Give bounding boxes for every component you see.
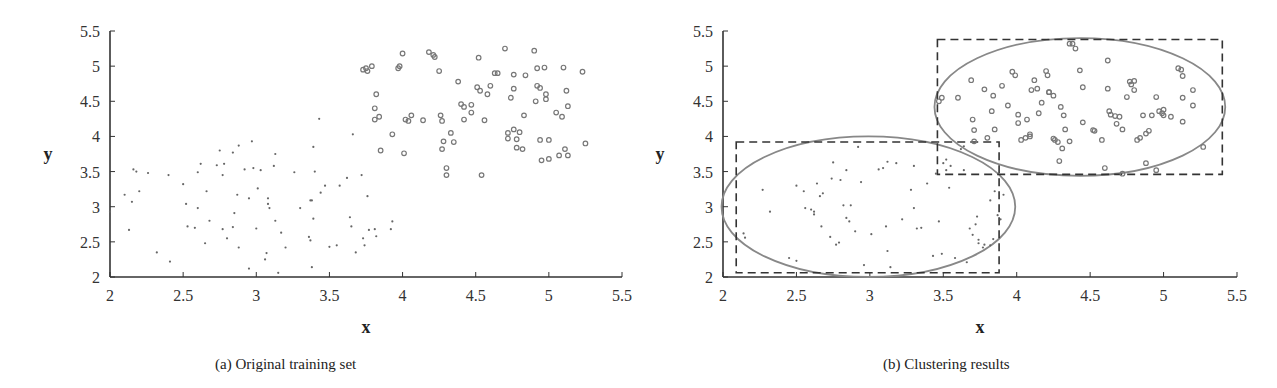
data-point-dot — [963, 169, 965, 171]
data-point-dot — [264, 258, 266, 260]
data-point-circle — [1061, 113, 1066, 118]
data-point-dot — [994, 190, 996, 192]
data-point-circle — [1025, 117, 1030, 122]
data-point-circle — [1105, 58, 1110, 63]
data-point-circle — [440, 147, 445, 152]
data-point-circle — [517, 130, 522, 135]
data-point-circle — [506, 136, 511, 141]
data-point-circle — [989, 109, 994, 114]
data-point-dot — [820, 225, 822, 227]
data-point-dot — [169, 260, 171, 262]
data-point-dot — [842, 204, 844, 206]
data-point-circle — [1051, 93, 1056, 98]
panel-original-training-set: 22.533.544.555.522.533.544.555.5xy (a) O… — [0, 0, 640, 388]
data-point-dot — [835, 244, 837, 246]
data-point-dot — [222, 174, 224, 176]
data-point-dot — [810, 208, 812, 210]
data-point-dot — [942, 162, 944, 164]
data-point-circle — [514, 145, 519, 150]
data-point-circle — [485, 92, 490, 97]
data-point-circle — [370, 64, 375, 69]
data-point-circle — [377, 114, 382, 119]
data-point-dot — [945, 159, 947, 161]
data-point-dot — [822, 192, 824, 194]
data-point-dot — [960, 148, 962, 150]
data-point-dot — [350, 225, 352, 227]
data-point-circle — [557, 153, 562, 158]
x-tick-label: 3.5 — [933, 287, 953, 304]
data-point-circle — [1191, 103, 1196, 108]
data-point-circle — [509, 95, 514, 100]
data-point-dot — [804, 207, 806, 209]
data-point-dot — [277, 272, 279, 274]
data-point-dot — [885, 225, 887, 227]
data-point-dot — [208, 220, 210, 222]
data-point-dot — [147, 172, 149, 174]
data-point-dot — [831, 178, 833, 180]
data-point-circle — [421, 118, 426, 123]
data-point-dot — [320, 192, 322, 194]
data-point-dot — [197, 171, 199, 173]
data-point-dot — [251, 140, 253, 142]
data-point-dot — [945, 169, 947, 171]
data-point-dot — [346, 177, 348, 179]
data-point-dot — [895, 162, 897, 164]
data-point-dot — [795, 185, 797, 187]
x-tick-label: 5 — [1160, 287, 1168, 304]
x-tick-label: 5.5 — [612, 287, 632, 304]
data-point-circle — [437, 69, 442, 74]
data-point-circle — [478, 88, 483, 93]
data-point-dot — [311, 199, 313, 201]
data-point-dot — [255, 227, 257, 229]
circle-series — [361, 46, 588, 177]
data-point-circle — [1058, 105, 1063, 110]
data-point-circle — [561, 65, 566, 70]
data-point-circle — [1081, 85, 1086, 90]
data-point-circle — [514, 137, 519, 142]
x-axis-label: x — [976, 317, 985, 337]
data-point-dot — [194, 227, 196, 229]
data-point-dot — [977, 239, 979, 241]
data-point-circle — [495, 71, 500, 76]
y-tick-label: 5.5 — [693, 23, 713, 40]
data-point-dot — [274, 153, 276, 155]
data-point-circle — [1120, 127, 1125, 132]
x-tick-label: 2 — [106, 287, 114, 304]
data-point-circle — [564, 88, 569, 93]
data-point-dot — [391, 220, 393, 222]
data-point-dot — [355, 251, 357, 253]
data-point-circle — [372, 106, 377, 111]
data-point-dot — [226, 237, 228, 239]
data-point-dot — [219, 149, 221, 151]
data-point-dot — [982, 246, 984, 248]
data-point-dot — [362, 237, 364, 239]
x-tick-label: 2.5 — [786, 287, 806, 304]
data-point-circle — [488, 84, 493, 89]
y-axis-label: y — [44, 144, 53, 164]
data-point-circle — [520, 147, 525, 152]
caption-b: (b) Clustering results — [883, 356, 1010, 373]
y-axis-label: y — [656, 144, 665, 164]
data-point-dot — [167, 174, 169, 176]
data-point-circle — [991, 93, 996, 98]
dot-series — [109, 118, 394, 274]
data-point-dot — [1002, 194, 1004, 196]
x-tick-label: 4 — [1013, 287, 1021, 304]
x-tick-label: 2 — [719, 287, 727, 304]
data-point-dot — [886, 250, 888, 252]
data-point-circle — [441, 139, 446, 144]
data-point-dot — [128, 229, 130, 231]
data-point-dot — [363, 244, 365, 246]
x-tick-label: 3 — [252, 287, 260, 304]
cluster-2-ellipse — [934, 38, 1225, 176]
data-point-circle — [438, 113, 443, 118]
y-tick-label: 2 — [92, 269, 100, 286]
x-tick-label: 4.5 — [1080, 287, 1100, 304]
data-point-dot — [976, 215, 978, 217]
data-point-dot — [252, 167, 254, 169]
data-point-dot — [361, 174, 363, 176]
data-point-dot — [293, 171, 295, 173]
data-point-circle — [1103, 166, 1108, 171]
data-point-dot — [124, 194, 126, 196]
cluster-2-bounding-box — [937, 39, 1222, 174]
